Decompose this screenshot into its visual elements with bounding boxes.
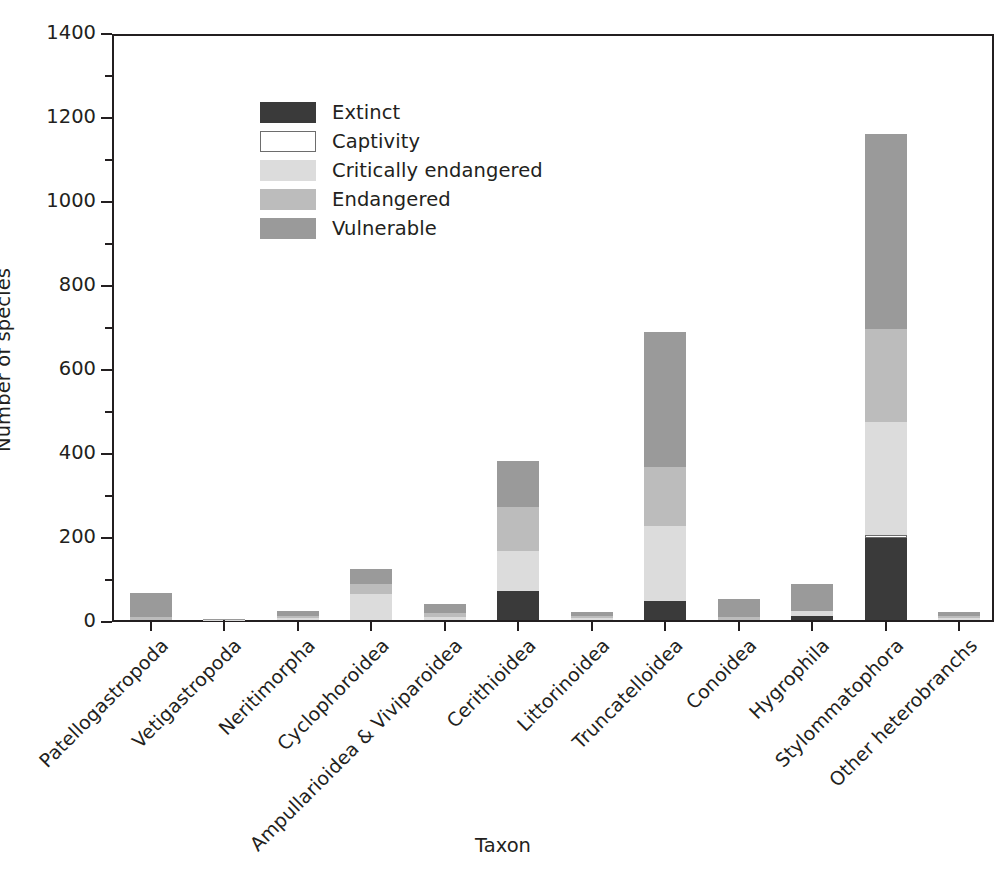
y-tick-mark	[101, 453, 112, 455]
y-tick-mark	[101, 33, 112, 35]
bar-segment-vulnerable	[791, 584, 833, 610]
y-tick-mark	[101, 537, 112, 539]
bar-segment-endangered	[424, 613, 466, 617]
bar-ampullarioidea-viviparoidea[interactable]	[424, 604, 466, 620]
legend-item-endangered[interactable]: Endangered	[260, 185, 543, 214]
bar-segment-vulnerable	[277, 611, 319, 616]
bar-segment-endangered	[277, 616, 319, 619]
y-tick-label: 800	[59, 273, 96, 296]
y-tick-label: 200	[59, 525, 96, 548]
bar-truncatelloidea[interactable]	[644, 332, 686, 620]
bar-segment-vulnerable	[865, 134, 907, 330]
bar-stylommatophora[interactable]	[865, 134, 907, 620]
bar-segment-extinct	[497, 591, 539, 620]
y-tick-label: 1400	[46, 21, 96, 44]
y-tick-mark	[101, 201, 112, 203]
legend-label: Captivity	[332, 130, 420, 153]
bar-segment-vulnerable	[718, 599, 760, 617]
plot-area: ExtinctCaptivityCritically endangeredEnd…	[112, 34, 994, 622]
x-tick-mark	[738, 620, 740, 631]
x-category-label: Conoidea	[681, 634, 760, 713]
x-tick-mark	[150, 620, 152, 631]
bar-littorinoidea[interactable]	[571, 612, 613, 620]
swatch-critical	[260, 160, 316, 181]
x-tick-mark	[297, 620, 299, 631]
y-tick-label: 600	[59, 357, 96, 380]
y-axis-title: Number of species	[0, 230, 15, 490]
bar-segment-critically-endangered	[791, 611, 833, 616]
bar-segment-critically-endangered	[350, 594, 392, 620]
legend-label: Extinct	[332, 101, 400, 124]
bar-other-heterobranchs[interactable]	[938, 612, 980, 620]
x-tick-mark	[444, 620, 446, 631]
bar-segment-endangered	[938, 616, 980, 619]
x-tick-mark	[591, 620, 593, 631]
y-tick-label: 1000	[46, 189, 96, 212]
legend-item-captivity[interactable]: Captivity	[260, 127, 543, 156]
bar-segment-endangered	[571, 616, 613, 619]
x-tick-mark	[958, 620, 960, 631]
bar-segment-vulnerable	[644, 332, 686, 466]
legend-label: Endangered	[332, 188, 451, 211]
y-tick-mark	[101, 117, 112, 119]
x-tick-mark	[370, 620, 372, 631]
y-tick-mark	[101, 285, 112, 287]
legend-item-critically-endangered[interactable]: Critically endangered	[260, 156, 543, 185]
bar-segment-endangered	[865, 329, 907, 421]
x-category-label: Other heterobranchs	[824, 634, 981, 791]
y-tick-mark	[105, 411, 112, 413]
x-tick-mark	[223, 620, 225, 631]
x-tick-mark	[811, 620, 813, 631]
y-tick-label: 0	[84, 609, 96, 632]
bar-segment-endangered	[497, 507, 539, 551]
legend-item-vulnerable[interactable]: Vulnerable	[260, 214, 543, 243]
y-tick-mark	[101, 369, 112, 371]
bar-segment-vulnerable	[130, 593, 172, 617]
x-axis-title: Taxon	[0, 834, 1006, 857]
bar-conoidea[interactable]	[718, 599, 760, 620]
x-tick-mark	[664, 620, 666, 631]
bar-segment-critically-endangered	[644, 526, 686, 602]
bar-segment-vulnerable	[497, 461, 539, 506]
bar-segment-critically-endangered	[497, 551, 539, 591]
y-tick-mark	[105, 579, 112, 581]
x-tick-mark	[885, 620, 887, 631]
bar-segment-extinct	[644, 601, 686, 620]
legend-label: Vulnerable	[332, 217, 437, 240]
x-tick-mark	[517, 620, 519, 631]
bar-segment-endangered	[350, 584, 392, 594]
bar-cyclophoroidea[interactable]	[350, 569, 392, 620]
bar-segment-vulnerable	[571, 612, 613, 616]
legend-item-extinct[interactable]: Extinct	[260, 98, 543, 127]
y-tick-mark	[105, 159, 112, 161]
swatch-vulnerable	[260, 218, 316, 239]
bar-segment-extinct	[865, 538, 907, 620]
x-category-label: Stylommatophora	[770, 634, 907, 771]
bar-cerithioidea[interactable]	[497, 461, 539, 620]
y-tick-label: 400	[59, 441, 96, 464]
bar-neritimorpha[interactable]	[277, 611, 319, 620]
bar-segment-critically-endangered	[865, 422, 907, 535]
bar-patellogastropoda[interactable]	[130, 593, 172, 620]
y-tick-mark	[105, 243, 112, 245]
bar-segment-endangered	[644, 467, 686, 526]
y-tick-mark	[101, 621, 112, 623]
y-tick-mark	[105, 75, 112, 77]
y-tick-mark	[105, 327, 112, 329]
bar-hygrophila[interactable]	[791, 584, 833, 620]
y-tick-label: 1200	[46, 105, 96, 128]
y-tick-mark	[105, 495, 112, 497]
chart-page: Number of species 0200400600800100012001…	[0, 0, 1006, 895]
swatch-extinct	[260, 102, 316, 123]
bar-segment-captivity	[865, 535, 907, 538]
swatch-captivity	[260, 131, 316, 152]
swatch-endangered	[260, 189, 316, 210]
legend-label: Critically endangered	[332, 159, 543, 182]
x-category-label: Patellogastropoda	[35, 634, 173, 772]
bar-segment-vulnerable	[350, 569, 392, 585]
bar-segment-vulnerable	[938, 612, 980, 616]
bar-segment-vulnerable	[424, 604, 466, 613]
legend: ExtinctCaptivityCritically endangeredEnd…	[260, 98, 543, 243]
